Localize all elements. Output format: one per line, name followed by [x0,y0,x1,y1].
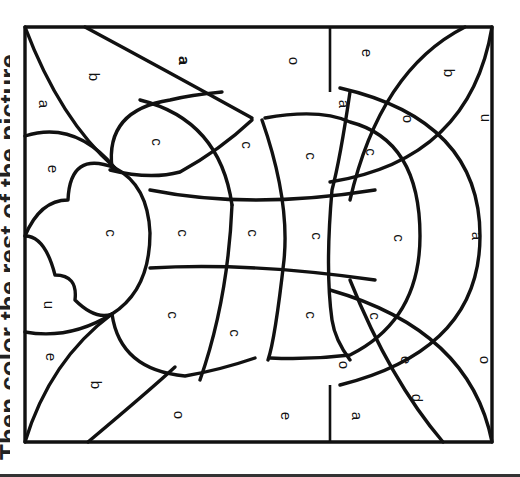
region-letter: c [175,229,192,237]
region-letter: c [227,329,244,337]
region-letter: a [176,56,193,65]
region-letter: a [469,232,486,241]
band-bottom [150,267,375,281]
region-letter: c [149,138,166,146]
region-letter: o [171,411,188,419]
region-letter: o [336,361,353,369]
region-letter: c [363,148,380,156]
region-letter: c [103,229,120,237]
leaf-top-left-inner [85,27,252,118]
region-letter: b [88,381,105,389]
region-letter: c [165,311,182,319]
region-letter: e [398,356,415,364]
wing-top-outer [110,120,252,176]
region-letter: e [359,49,376,57]
coloring-page: abaoebaaouccccecccccaucccceoeobdoea [0,0,520,477]
segment-line-2 [262,120,285,360]
region-letter: c [303,311,320,319]
region-letter: a [36,100,53,109]
region-labels: abaoebaaouccccecccccaucccceoeobdoea [36,49,495,421]
region-letter: c [367,312,384,320]
region-letter: u [478,114,495,122]
region-letter: e [45,165,62,173]
leaf-top-right-outer [330,27,492,182]
region-letter: b [441,69,458,77]
region-letter: o [477,356,494,364]
region-letter: u [41,301,58,309]
region-letter: o [286,57,303,65]
band-top [150,190,375,200]
segment-line-3 [329,92,351,360]
region-letter: c [245,229,262,237]
leaf-bottom-left-inner [88,367,175,442]
region-letter: c [309,232,326,240]
region-letter: c [391,234,408,242]
region-letter: c [239,141,256,149]
region-letter: e [278,412,295,420]
region-letter: e [43,353,60,361]
region-letter: a [349,412,366,421]
tail-ring [340,88,480,385]
region-letter: b [86,73,103,81]
segment-line-1b [200,205,232,380]
head-shape [25,163,150,315]
wing-bottom [112,314,255,376]
region-letter: o [400,115,417,123]
region-letter: a [336,100,353,109]
region-letter: c [303,152,320,160]
region-letter: d [409,394,426,402]
leaf-top-left-outer [25,27,115,168]
